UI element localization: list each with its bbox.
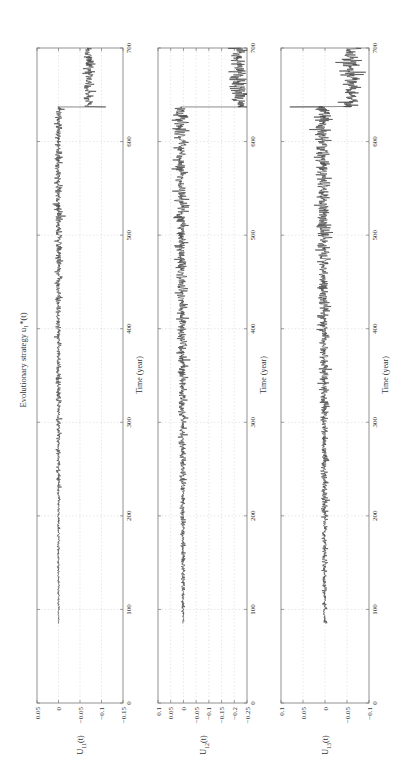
x-tick-label: 700 bbox=[125, 42, 133, 53]
x-axis-label: Time (year) bbox=[135, 356, 144, 394]
x-tick-label: 400 bbox=[249, 323, 257, 334]
figure-canvas: Evolutionary strategy u₁*(t) 01002003004… bbox=[0, 0, 401, 759]
y-tick-label: 0 bbox=[322, 707, 330, 711]
y-tick-label: −0.25 bbox=[244, 707, 252, 724]
x-tick-label: 600 bbox=[249, 136, 257, 147]
data-series-line bbox=[290, 48, 366, 623]
y-tick-label: −0.1 bbox=[98, 707, 106, 720]
x-tick-label: 700 bbox=[249, 42, 257, 53]
y-axis-label: U11(t) bbox=[76, 735, 87, 754]
x-tick-label: 500 bbox=[125, 229, 133, 240]
y-axis-label: U12(t) bbox=[199, 735, 210, 755]
y-tick-label: −0.05 bbox=[344, 707, 352, 724]
y-tick-label: −0.15 bbox=[120, 707, 128, 724]
x-tick-label: 0 bbox=[249, 701, 257, 705]
x-axis-label: Time (year) bbox=[259, 356, 268, 394]
x-tick-label: 100 bbox=[125, 604, 133, 615]
y-tick-label: 0 bbox=[180, 707, 188, 711]
x-tick-label: 100 bbox=[249, 604, 257, 615]
y-axis-label: U13(t) bbox=[321, 735, 332, 755]
x-tick-label: 500 bbox=[371, 229, 379, 240]
y-tick-label: −0.1 bbox=[205, 707, 213, 720]
y-tick-label: 0.05 bbox=[34, 707, 42, 720]
y-tick-label: −0.2 bbox=[231, 707, 239, 720]
y-tick-label: −0.05 bbox=[193, 707, 201, 724]
figure-title: Evolutionary strategy u₁*(t) bbox=[18, 312, 28, 407]
x-tick-label: 600 bbox=[125, 136, 133, 147]
x-tick-label: 300 bbox=[249, 417, 257, 428]
y-tick-label: 0.05 bbox=[300, 707, 308, 720]
y-tick-label: −0.1 bbox=[366, 707, 374, 720]
x-axis-label: Time (year) bbox=[381, 356, 390, 394]
x-tick-label: 600 bbox=[371, 136, 379, 147]
y-tick-label: −0.05 bbox=[77, 707, 85, 724]
x-tick-label: 0 bbox=[125, 701, 133, 705]
y-tick-label: 0.1 bbox=[155, 707, 163, 716]
x-tick-label: 200 bbox=[371, 510, 379, 521]
panel-u11: 01002003004005006007000.050−0.05−0.1−0.1… bbox=[34, 42, 145, 754]
x-tick-label: 300 bbox=[371, 417, 379, 428]
y-tick-label: 0 bbox=[55, 707, 63, 711]
x-tick-label: 100 bbox=[371, 604, 379, 615]
panel-u13: 01002003004005006007000.10.050−0.05−0.1U… bbox=[278, 42, 391, 754]
data-series-line bbox=[53, 48, 106, 623]
x-tick-label: 200 bbox=[249, 510, 257, 521]
y-tick-label: 0.05 bbox=[167, 707, 175, 720]
plot-frame bbox=[158, 48, 247, 703]
x-tick-label: 400 bbox=[125, 323, 133, 334]
x-tick-label: 0 bbox=[371, 701, 379, 705]
x-tick-label: 500 bbox=[249, 229, 257, 240]
x-tick-label: 400 bbox=[371, 323, 379, 334]
x-tick-label: 700 bbox=[371, 42, 379, 53]
panel-u12: 01002003004005006007000.10.050−0.05−0.1−… bbox=[155, 42, 269, 754]
x-tick-label: 200 bbox=[125, 510, 133, 521]
data-series-line bbox=[172, 48, 247, 623]
y-tick-label: 0.1 bbox=[278, 707, 286, 716]
x-tick-label: 300 bbox=[125, 417, 133, 428]
y-tick-label: −0.15 bbox=[218, 707, 226, 724]
